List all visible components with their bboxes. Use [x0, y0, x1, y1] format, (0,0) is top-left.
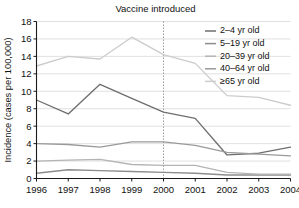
page-title: Vaccine introduced: [115, 3, 195, 14]
x-tick-label: 1998: [89, 184, 110, 195]
y-tick-label: 18: [21, 16, 32, 27]
legend-label-1: 5–19 yr old: [220, 38, 265, 48]
y-tick-label: 4: [26, 138, 31, 149]
y-tick-label: 6: [26, 121, 31, 132]
chart-canvas: Vaccine introduced0246810121416181996199…: [0, 0, 299, 208]
x-tick-label: 2002: [216, 184, 237, 195]
x-tick-label: 2001: [185, 184, 206, 195]
legend-label-3: 40–64 yr old: [220, 63, 270, 73]
x-tick-label: 2004: [280, 184, 299, 195]
y-tick-label: 12: [21, 68, 32, 79]
y-axis-title: Incidence (cases per 100,000): [3, 37, 13, 162]
x-tick-label: 1997: [58, 184, 79, 195]
y-tick-label: 14: [21, 51, 32, 62]
y-tick-label: 16: [21, 33, 32, 44]
legend-label-4: ≥65 yr old: [220, 76, 259, 86]
legend-label-0: 2–4 yr old: [220, 25, 260, 35]
x-tick-label: 1999: [121, 184, 142, 195]
legend-label-2: 20–39 yr old: [220, 51, 270, 61]
line-chart: Vaccine introduced0246810121416181996199…: [0, 0, 299, 208]
x-tick-label: 1996: [26, 184, 47, 195]
x-tick-label: 2003: [248, 184, 269, 195]
y-tick-label: 8: [26, 103, 31, 114]
y-tick-label: 10: [21, 86, 32, 97]
y-tick-label: 0: [26, 173, 31, 184]
y-tick-label: 2: [26, 155, 31, 166]
x-tick-label: 2000: [153, 184, 174, 195]
